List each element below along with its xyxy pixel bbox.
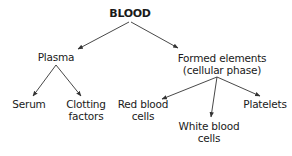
node-clotting-line2: factors: [62, 111, 110, 123]
edge-formed-platelets: [217, 77, 260, 96]
node-clotting-line1: Clotting: [62, 99, 110, 111]
node-red-blood-cells: Red blood cells: [113, 99, 173, 122]
edge-blood-plasma: [78, 22, 129, 49]
node-rbc-line1: Red blood: [113, 99, 173, 111]
node-serum: Serum: [4, 99, 54, 111]
node-rbc-line2: cells: [113, 111, 173, 123]
node-formed-elements: Formed elements (cellular phase): [172, 53, 272, 76]
node-formed-line1: Formed elements: [172, 53, 272, 65]
node-wbc-line2: cells: [174, 133, 244, 145]
edge-blood-formed: [131, 22, 178, 48]
edge-plasma-clotting: [56, 65, 81, 96]
node-formed-line2: (cellular phase): [172, 65, 272, 77]
node-platelets: Platelets: [240, 99, 290, 111]
node-white-blood-cells: White blood cells: [174, 121, 244, 144]
node-blood: BLOOD: [100, 8, 160, 20]
node-plasma: Plasma: [30, 52, 82, 64]
edge-plasma-serum: [33, 65, 56, 96]
edge-formed-rbc: [162, 77, 217, 99]
node-wbc-line1: White blood: [174, 121, 244, 133]
edge-layer: [0, 0, 292, 156]
node-clotting-factors: Clotting factors: [62, 99, 110, 122]
edge-formed-wbc: [211, 77, 217, 117]
